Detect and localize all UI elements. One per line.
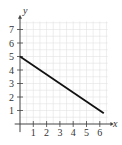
grid xyxy=(20,21,108,124)
x-tick-label: 3 xyxy=(57,127,62,138)
x-tick-label: 1 xyxy=(31,127,36,138)
y-tick-label: 3 xyxy=(9,78,14,89)
tick-marks xyxy=(17,30,100,128)
x-tick-label: 2 xyxy=(44,127,49,138)
y-tick-label: 7 xyxy=(9,24,14,35)
y-tick-label: 4 xyxy=(9,65,14,76)
y-tick-label: 6 xyxy=(9,38,14,49)
data-line xyxy=(20,57,104,114)
y-axis-arrow-icon xyxy=(18,15,22,19)
axes xyxy=(15,15,114,132)
chart: 1234561234567 x y xyxy=(0,0,122,145)
y-tick-label: 2 xyxy=(9,92,14,103)
data-series xyxy=(20,57,104,114)
y-tick-label: 1 xyxy=(9,105,14,116)
y-axis-label: y xyxy=(22,5,28,16)
x-tick-label: 4 xyxy=(71,127,76,138)
x-tick-label: 5 xyxy=(84,127,89,138)
x-tick-label: 6 xyxy=(97,127,102,138)
x-axis-label: x xyxy=(112,118,118,129)
y-tick-label: 5 xyxy=(9,51,14,62)
